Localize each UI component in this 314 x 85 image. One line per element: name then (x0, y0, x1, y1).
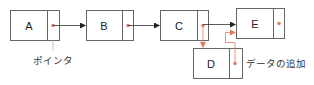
node-e-label: E (251, 18, 258, 30)
node-b-label: B (100, 20, 107, 32)
node-c: C (161, 11, 209, 41)
node-c-label: C (175, 20, 183, 32)
pointer-dot-icon (277, 22, 281, 26)
node-a-label: A (25, 20, 33, 32)
add-data-label: データの追加 (246, 58, 306, 69)
node-b: B (87, 11, 134, 41)
node-e: E (237, 9, 285, 39)
pointer-label: ポインタ (33, 55, 73, 66)
node-a: A (11, 11, 60, 41)
linked-list-diagram: A B C E D ポインタ データの追加 (0, 0, 314, 85)
node-d-label: D (207, 58, 215, 70)
